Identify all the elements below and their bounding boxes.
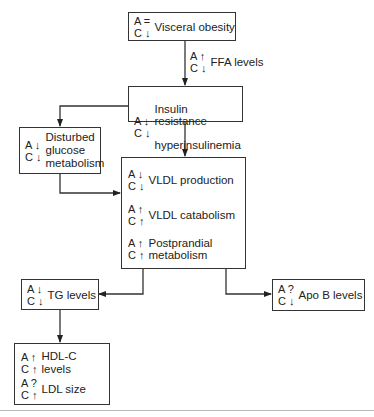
item-vldl-production: A ↓ C ↓ VLDL production bbox=[128, 168, 234, 192]
ac-indicators: A = C ↓ bbox=[134, 15, 151, 39]
node-tg-levels: A ↓ C ↓ TG levels bbox=[21, 279, 99, 310]
node-hdl-ldl: A ↑ C ↑ HDL-C levels A ? C ↑ LDL size bbox=[14, 343, 110, 405]
ac-indicators: A ↑ C ↓ bbox=[190, 50, 207, 74]
ac-indicators: A ↑ C ↑ bbox=[128, 203, 145, 227]
ac-indicators: A ? C ↑ bbox=[21, 377, 38, 401]
node-label: Apo B levels bbox=[299, 289, 363, 302]
arrow-vldl-to-apob bbox=[226, 268, 271, 294]
node-label: LDL size bbox=[42, 383, 86, 396]
item-hdl-c-levels: A ↑ C ↑ HDL-C levels bbox=[21, 350, 109, 376]
node-label-line2: hyperinsulinemia bbox=[155, 139, 243, 151]
node-label: Disturbed glucose metabolism bbox=[46, 131, 105, 170]
edge-label-ffa: A ↑ C ↓ FFA levels bbox=[190, 50, 264, 74]
ac-indicators: A ↑ C ↑ bbox=[21, 351, 38, 375]
node-insulin-resistance: A ↓ C ↓ Insulin resistance hyperinsuline… bbox=[128, 86, 243, 122]
node-label: HDL-C levels bbox=[42, 350, 110, 376]
node-label: TG levels bbox=[48, 289, 97, 302]
arrow-glucose-to-vldl bbox=[60, 173, 120, 193]
item-postprandial: A ↑ C ↑ Postprandial metabolism bbox=[128, 237, 212, 261]
item-vldl-catabolism: A ↑ C ↑ VLDL catabolism bbox=[128, 203, 235, 227]
ac-indicators: A ↓ C ↓ bbox=[27, 283, 44, 307]
arrow-insulin-to-glucose bbox=[60, 106, 128, 126]
node-vldl-metabolism: A ↓ C ↓ VLDL production A ↑ C ↑ VLDL cat… bbox=[121, 157, 246, 269]
node-label: Postprandial metabolism bbox=[149, 237, 213, 261]
arrow-vldl-to-tg bbox=[99, 268, 143, 294]
node-label: Visceral obesity bbox=[155, 21, 235, 34]
ac-indicators: A ↓ C ↓ bbox=[25, 139, 42, 163]
node-label: VLDL catabolism bbox=[149, 209, 236, 222]
node-apob-levels: A ? C ↓ Apo B levels bbox=[272, 279, 365, 311]
separator-line bbox=[0, 410, 374, 411]
ac-indicators: A ↓ C ↓ bbox=[134, 115, 151, 139]
node-visceral-obesity: A = C ↓ Visceral obesity bbox=[128, 12, 236, 41]
node-label-line1: Insulin resistance bbox=[155, 103, 243, 127]
node-label: VLDL production bbox=[149, 174, 234, 187]
node-label: FFA levels bbox=[211, 56, 264, 69]
node-disturbed-glucose: A ↓ C ↓ Disturbed glucose metabolism bbox=[19, 127, 101, 174]
ac-indicators: A ? C ↓ bbox=[278, 283, 295, 307]
ac-indicators: A ↑ C ↑ bbox=[128, 237, 145, 261]
ac-indicators: A ↓ C ↓ bbox=[128, 168, 145, 192]
item-ldl-size: A ? C ↑ LDL size bbox=[21, 377, 86, 401]
